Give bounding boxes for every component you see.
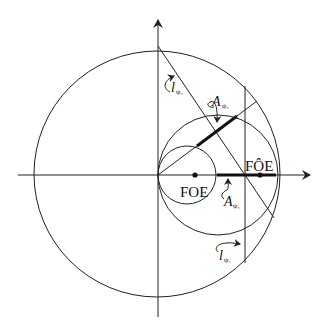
a-psi1-label: A (223, 194, 233, 209)
l-psi2-label: l (171, 80, 175, 95)
foe-point (192, 172, 197, 177)
a-psi2-subscript: ψ₂ (222, 102, 229, 110)
l-psi1-label: l (219, 248, 223, 263)
l-psi1-subscript: ψ₁ (224, 256, 231, 264)
a-psi2-label: A (211, 94, 221, 109)
foe-label: FOE (180, 184, 208, 200)
a-psi1-subscript: ψ₁ (233, 202, 240, 210)
geometry-diagram: FOE FÔE l ψ₂ A ψ₂ A ψ₁ l ψ₁ (0, 0, 326, 335)
l-psi2-subscript: ψ₂ (176, 88, 183, 96)
foe-hat-label: FÔE (245, 158, 273, 174)
